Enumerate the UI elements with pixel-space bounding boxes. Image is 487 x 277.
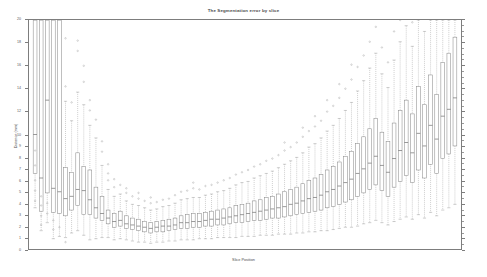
y-tick-label: 18 bbox=[5, 40, 21, 44]
boxplot-box bbox=[344, 88, 348, 227]
y-tick-label: 5 bbox=[5, 190, 21, 194]
boxplot-box bbox=[112, 178, 116, 239]
y-tick-label: 4 bbox=[5, 202, 21, 206]
y-tick-mark-right bbox=[462, 146, 465, 147]
boxplot-box bbox=[441, 20, 445, 210]
boxplot-box bbox=[374, 26, 378, 220]
y-minor-tick bbox=[462, 186, 464, 187]
boxplot-box bbox=[453, 20, 457, 204]
y-minor-tick bbox=[462, 100, 464, 101]
boxplot-box bbox=[222, 180, 226, 238]
boxplot-box bbox=[64, 38, 68, 243]
y-minor-tick bbox=[462, 54, 464, 55]
y-minor-tick bbox=[462, 106, 464, 107]
y-tick-mark-right bbox=[462, 169, 465, 170]
boxplot-box bbox=[258, 164, 262, 236]
y-tick-label: 3 bbox=[5, 213, 21, 217]
y-tick-label: 0 bbox=[5, 248, 21, 252]
plot-area bbox=[28, 19, 462, 250]
boxplot-box bbox=[380, 47, 384, 223]
y-minor-tick bbox=[462, 210, 464, 211]
boxplot-box bbox=[131, 196, 135, 241]
boxplot-box bbox=[45, 20, 49, 223]
boxplot-box bbox=[356, 66, 360, 226]
boxplot-box bbox=[118, 184, 122, 239]
y-minor-tick bbox=[462, 175, 464, 176]
boxplot-box bbox=[386, 62, 390, 225]
boxplot-box bbox=[283, 142, 287, 234]
y-minor-tick bbox=[462, 244, 464, 245]
boxplot-box bbox=[76, 40, 80, 231]
boxplot-box bbox=[423, 31, 427, 218]
boxplot-box bbox=[392, 31, 396, 222]
y-tick-mark-right bbox=[462, 181, 465, 182]
y-minor-tick bbox=[462, 152, 464, 153]
y-tick-mark-right bbox=[462, 227, 465, 228]
boxplot-box bbox=[240, 172, 244, 237]
boxplot-box bbox=[289, 146, 293, 234]
boxplot-box bbox=[149, 197, 153, 244]
boxplot-box bbox=[179, 191, 183, 240]
boxplot-box bbox=[270, 158, 274, 235]
boxplot-box bbox=[301, 127, 305, 233]
boxplot-box bbox=[398, 20, 402, 219]
y-minor-tick bbox=[462, 129, 464, 130]
boxplot-box bbox=[185, 190, 189, 240]
y-minor-tick bbox=[462, 25, 464, 26]
y-minor-tick bbox=[462, 163, 464, 164]
boxplot-box bbox=[94, 119, 98, 239]
y-tick-mark bbox=[25, 250, 28, 251]
boxplot-box bbox=[264, 160, 268, 235]
y-tick-label: 7 bbox=[5, 167, 21, 171]
y-tick-mark-right bbox=[462, 88, 465, 89]
y-minor-tick bbox=[462, 48, 464, 49]
boxplot-box bbox=[124, 188, 128, 240]
boxplot-box bbox=[161, 199, 165, 242]
boxplot-box bbox=[143, 200, 147, 242]
boxplot-box bbox=[307, 130, 311, 232]
boxplot-box bbox=[100, 141, 104, 238]
y-tick-label: 16 bbox=[5, 63, 21, 67]
y-tick-mark-right bbox=[462, 250, 465, 251]
boxplot-box bbox=[216, 182, 220, 238]
boxplot-box bbox=[88, 99, 92, 239]
boxplot-box bbox=[447, 20, 451, 208]
boxplot-box bbox=[137, 192, 141, 242]
y-minor-tick bbox=[462, 117, 464, 118]
y-tick-mark-right bbox=[462, 204, 465, 205]
boxplot-box bbox=[173, 194, 177, 241]
boxplot-box bbox=[362, 55, 366, 224]
y-tick-mark-right bbox=[462, 111, 465, 112]
boxplot-box bbox=[410, 22, 414, 220]
y-tick-label: 8 bbox=[5, 156, 21, 160]
boxplot-box bbox=[33, 20, 37, 208]
y-tick-label: 6 bbox=[5, 179, 21, 183]
y-tick-mark-right bbox=[462, 65, 465, 66]
y-tick-label: 12 bbox=[5, 109, 21, 113]
boxplot-box bbox=[404, 26, 408, 217]
y-tick-mark-right bbox=[462, 158, 465, 159]
y-minor-tick bbox=[462, 123, 464, 124]
boxplot-box bbox=[429, 20, 433, 212]
y-minor-tick bbox=[462, 71, 464, 72]
boxplot-box bbox=[197, 189, 201, 239]
y-tick-label: 20 bbox=[5, 17, 21, 21]
y-tick-mark-right bbox=[462, 215, 465, 216]
y-minor-tick bbox=[462, 233, 464, 234]
boxplot-box bbox=[58, 20, 62, 236]
y-minor-tick bbox=[462, 94, 464, 95]
boxplot-box bbox=[350, 64, 354, 227]
boxplot-box bbox=[204, 185, 208, 238]
boxplot-box bbox=[106, 164, 110, 238]
boxplot-box bbox=[368, 41, 372, 223]
chart-screenshot: The Segmentation error by slice Distance… bbox=[0, 0, 487, 277]
y-tick-mark-right bbox=[462, 42, 465, 43]
y-minor-tick bbox=[462, 221, 464, 222]
boxplot-box bbox=[331, 105, 335, 229]
boxplot-box bbox=[167, 198, 171, 241]
y-minor-tick bbox=[462, 31, 464, 32]
y-minor-tick bbox=[462, 83, 464, 84]
boxplot-series bbox=[29, 20, 461, 249]
y-minor-tick bbox=[462, 36, 464, 37]
y-tick-mark-right bbox=[462, 19, 465, 20]
